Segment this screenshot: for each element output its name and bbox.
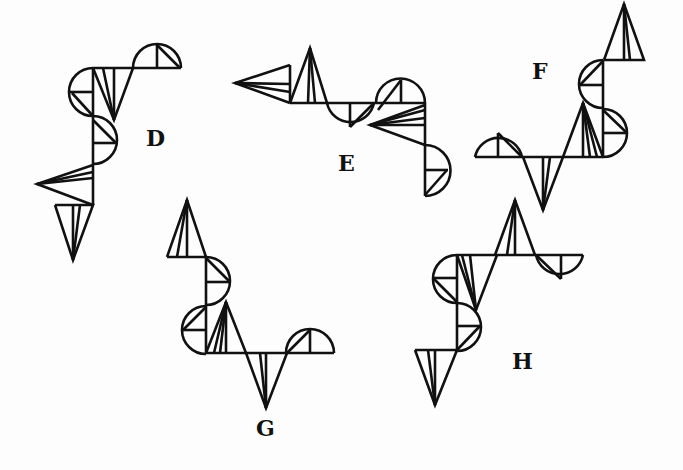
segment-line	[157, 45, 180, 68]
figure-g	[167, 200, 334, 408]
figure-label-h: H	[512, 348, 533, 374]
figure-label-e: E	[338, 150, 355, 176]
segment-line	[183, 307, 206, 330]
segment-line	[37, 165, 93, 205]
figure-h	[415, 200, 583, 405]
figure-drawing-layer	[0, 0, 683, 470]
figure-f	[475, 4, 644, 210]
figure-d	[37, 44, 181, 260]
figure-label-d: D	[146, 125, 165, 151]
segment-line	[498, 133, 522, 157]
segment-line	[378, 80, 401, 110]
segment-line	[536, 255, 561, 279]
segment-line	[177, 200, 187, 257]
semicircle-arc	[536, 255, 583, 274]
figure-label-f: F	[532, 58, 548, 84]
diagram-canvas: DEFGH	[0, 0, 683, 470]
segment-line	[425, 170, 447, 195]
segment-line	[457, 326, 480, 350]
segment-line	[580, 61, 603, 85]
segment-line	[287, 330, 310, 353]
segment-line	[350, 103, 374, 127]
segment-line	[93, 120, 116, 143]
figure-label-g: G	[256, 415, 275, 441]
